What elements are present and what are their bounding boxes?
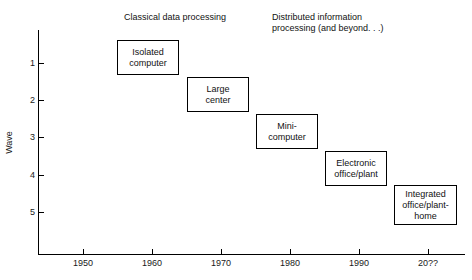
x-tick-label-1960: 1960 (132, 258, 172, 268)
x-tick-mark-1970 (221, 249, 222, 254)
y-tick-mark-1 (39, 63, 44, 64)
heading-classical-data-processing: Classical data processing (124, 12, 226, 23)
y-tick-mark-2 (39, 100, 44, 101)
x-tick-label-1970: 1970 (201, 258, 241, 268)
y-tick-label-5: 5 (22, 208, 35, 217)
x-tick-label-1950: 1950 (63, 258, 103, 268)
y-tick-label-2: 2 (22, 96, 35, 105)
x-tick-mark-1980 (290, 249, 291, 254)
x-tick-label-1990: 1990 (339, 258, 379, 268)
y-tick-label-1: 1 (22, 59, 35, 68)
wave-box-electronic-office-plant[interactable]: Electronic office/plant (325, 151, 387, 186)
x-tick-mark-1990 (359, 249, 360, 254)
wave-box-mini-computer[interactable]: Mini- computer (256, 114, 318, 149)
wave-timeline-chart: Classical data processing Distributed in… (0, 0, 472, 280)
heading-distributed-information-processing: Distributed information processing (and … (272, 12, 384, 34)
x-tick-label-20xx: 20?? (408, 258, 448, 268)
y-tick-label-4: 4 (22, 171, 35, 180)
wave-box-isolated-computer[interactable]: Isolated computer (117, 40, 179, 75)
wave-box-integrated-office-plant-home[interactable]: Integrated office/plant- home (394, 185, 457, 225)
wave-box-large-center[interactable]: Large center (187, 77, 249, 112)
y-tick-mark-5 (39, 212, 44, 213)
y-axis-title: Wave (5, 123, 14, 163)
x-tick-mark-20xx (428, 249, 429, 254)
y-tick-mark-3 (39, 137, 44, 138)
x-axis-line (38, 254, 465, 255)
y-tick-label-3: 3 (22, 133, 35, 142)
x-tick-mark-1950 (83, 249, 84, 254)
x-tick-label-1980: 1980 (270, 258, 310, 268)
y-tick-mark-4 (39, 175, 44, 176)
x-tick-mark-1960 (152, 249, 153, 254)
